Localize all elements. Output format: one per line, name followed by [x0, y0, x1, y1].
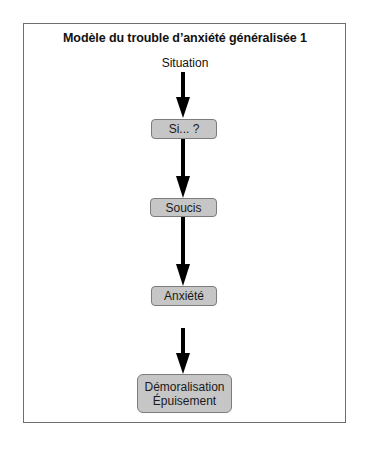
- node-label: Soucis: [165, 201, 201, 215]
- node-soucis: Soucis: [150, 198, 217, 217]
- arrow-down-icon: [175, 217, 191, 286]
- node-label: Anxiété: [164, 289, 204, 303]
- node-anxiete: Anxiété: [151, 286, 217, 306]
- node-si: Si... ?: [151, 119, 217, 139]
- node-label: Si... ?: [169, 122, 200, 136]
- node-label-line-1: Démoralisation: [144, 380, 224, 394]
- diagram-title: Modèle du trouble d’anxiété généralisée …: [23, 31, 347, 45]
- node-demoralisation-epuisement: Démoralisation Épuisement: [137, 374, 232, 413]
- arrow-down-icon: [175, 328, 191, 374]
- node-label-line-2: Épuisement: [153, 394, 216, 408]
- arrow-down-icon: [175, 72, 191, 118]
- arrow-down-icon: [175, 139, 191, 198]
- start-label-situation: Situation: [23, 56, 347, 70]
